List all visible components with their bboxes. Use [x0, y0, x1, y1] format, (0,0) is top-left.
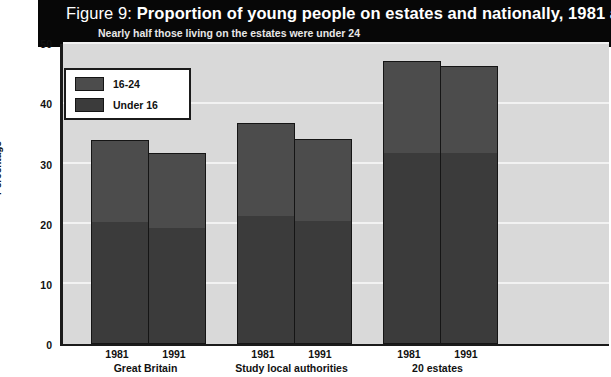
legend-label-16-24: 16-24	[113, 78, 140, 90]
bar-segment-under-16	[295, 221, 351, 343]
x-group-label: Study local authorities	[235, 362, 348, 374]
figure-subtitle: Nearly half those living on the estates …	[98, 27, 360, 39]
bar-great-britain-1981	[91, 140, 149, 344]
bar-segment-16-24	[441, 67, 497, 155]
x-tick-year: 1991	[308, 348, 331, 360]
x-tick-year: 1981	[251, 348, 274, 360]
legend-item-under-16: Under 16	[75, 97, 158, 113]
bar-segment-under-16	[441, 153, 497, 343]
x-tick-year: 1981	[105, 348, 128, 360]
bar-great-britain-1991	[148, 153, 206, 344]
bar-20-estates-1991	[440, 66, 498, 344]
x-group-label: 20 estates	[412, 362, 463, 374]
x-group-label: Great Britain	[114, 362, 178, 374]
y-axis-title: Percentage	[0, 141, 3, 195]
figure-9-chart: Figure 9: Proportion of young people on …	[0, 0, 611, 377]
title-band: Figure 9: Proportion of young people on …	[38, 0, 611, 47]
y-axis: 50 40 30 20 10 0 Percentage	[0, 0, 56, 377]
legend-item-16-24: 16-24	[75, 76, 140, 92]
y-tick-30: 30	[40, 159, 52, 171]
bar-segment-16-24	[92, 141, 148, 224]
bar-segment-under-16	[92, 222, 148, 343]
legend-swatch-16-24	[75, 77, 104, 91]
legend-swatch-under-16	[75, 98, 104, 112]
bar-study-local-authorities-1981	[237, 123, 295, 344]
bar-segment-under-16	[384, 153, 440, 343]
bar-study-local-authorities-1991	[294, 139, 352, 344]
figure-title: Proportion of young people on estates an…	[137, 4, 611, 22]
x-tick-year: 1991	[454, 348, 477, 360]
y-tick-50: 50	[40, 38, 52, 50]
gridline-50	[63, 42, 609, 44]
bar-segment-16-24	[149, 154, 205, 231]
x-tick-year: 1991	[162, 348, 185, 360]
bar-segment-under-16	[238, 216, 294, 343]
legend-label-under-16: Under 16	[113, 99, 158, 111]
x-axis: 198119911981199119811991Great BritainStu…	[0, 348, 611, 377]
y-tick-40: 40	[40, 98, 52, 110]
page-title: Figure 9: Proportion of young people on …	[66, 4, 611, 23]
y-tick-10: 10	[40, 279, 52, 291]
bar-20-estates-1981	[383, 61, 441, 344]
bar-segment-16-24	[384, 62, 440, 156]
bar-segment-under-16	[149, 228, 205, 343]
y-tick-20: 20	[40, 219, 52, 231]
figure-label: Figure 9:	[66, 4, 132, 22]
legend: 16-24 Under 16	[64, 68, 191, 120]
bar-segment-16-24	[295, 140, 351, 222]
x-tick-year: 1981	[397, 348, 420, 360]
bar-segment-16-24	[238, 124, 294, 219]
